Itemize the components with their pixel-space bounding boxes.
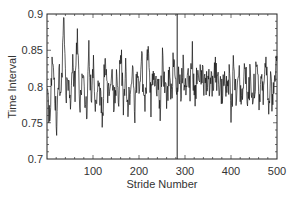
y-axis-tick-labels: 0.70.750.80.850.9 — [22, 8, 43, 165]
x-axis-title: Stride Number — [127, 178, 198, 190]
x-tick-label: 300 — [176, 165, 194, 177]
x-tick-label: 500 — [268, 165, 286, 177]
y-tick-label: 0.85 — [22, 44, 43, 56]
stride-interval-chart: 100200300400500 0.70.750.80.850.9 Stride… — [0, 0, 292, 201]
y-axis-title: Time Interval — [6, 55, 18, 118]
x-tick-label: 200 — [130, 165, 148, 177]
y-tick-label: 0.75 — [22, 117, 43, 129]
x-tick-label: 100 — [84, 165, 102, 177]
y-tick-label: 0.9 — [28, 8, 43, 20]
x-axis-tick-labels: 100200300400500 — [84, 165, 286, 177]
data-series-line — [47, 18, 277, 136]
y-tick-label: 0.8 — [28, 81, 43, 93]
y-tick-label: 0.7 — [28, 153, 43, 165]
x-tick-label: 400 — [222, 165, 240, 177]
